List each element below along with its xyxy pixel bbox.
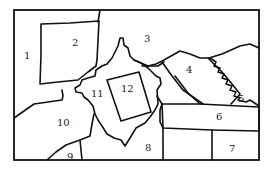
region-label-12: 12	[121, 83, 134, 94]
region-label-5: 5	[238, 93, 244, 104]
region-label-2: 2	[72, 37, 78, 48]
region-label-1: 1	[24, 50, 30, 61]
region-11-boundary	[75, 38, 161, 146]
boundary-4-6	[175, 76, 200, 104]
boundary-1-3	[98, 10, 100, 22]
region-2-boundary	[40, 21, 99, 84]
boundary-9-8	[80, 140, 82, 160]
region-label-7: 7	[229, 143, 235, 154]
region-label-6: 6	[216, 111, 222, 122]
boundary-3-4	[134, 44, 259, 66]
region-5-jagged-edge	[210, 58, 259, 106]
boundary-1-10	[14, 90, 63, 118]
region-map: 1 2 3 4 5 6 7 8 9 10 11 12	[0, 0, 271, 178]
region-label-10: 10	[57, 117, 70, 128]
map-frame	[14, 10, 259, 160]
region-6-boundary	[162, 104, 259, 131]
region-12-boundary	[107, 72, 151, 121]
region-label-11: 11	[91, 88, 104, 99]
region-label-9: 9	[67, 151, 73, 162]
region-label-4: 4	[186, 64, 192, 75]
region-label-3: 3	[144, 33, 150, 44]
boundary-4-5	[162, 62, 203, 104]
region-label-8: 8	[145, 142, 151, 153]
